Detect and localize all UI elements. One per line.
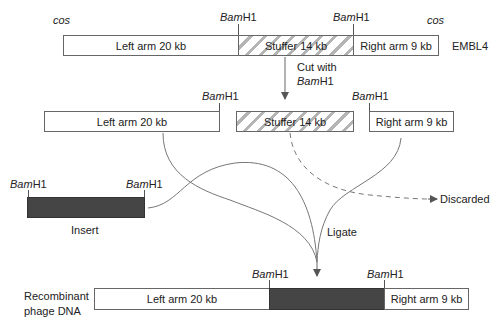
fragment-stuffer: Stuffer 14 kb: [236, 111, 354, 132]
vector-right-arm: Right arm 9 kb: [353, 35, 439, 56]
cos-left-label: cos: [53, 14, 70, 26]
discarded-label: Discarded: [440, 193, 490, 205]
recombinant-label-line1: Recombinant: [24, 290, 89, 302]
fragment-left-arm: Left arm 20 kb: [44, 111, 220, 132]
bamh1-site-label: BamH1: [252, 268, 289, 280]
insert-label: Insert: [71, 224, 99, 236]
cos-right-label: cos: [427, 14, 444, 26]
cloning-diagram: cos cos BamH1 BamH1 Left arm 20 kb Stuff…: [0, 0, 499, 329]
right-arm-curve: [317, 138, 401, 262]
bamh1-site-label: BamH1: [352, 90, 389, 102]
fragment-right-arm: Right arm 9 kb: [369, 111, 454, 132]
discard-curve: [290, 133, 428, 199]
vector-left-arm: Left arm 20 kb: [63, 35, 239, 56]
vector-stuffer: Stuffer 14 kb: [238, 35, 354, 56]
recombinant-insert: [269, 288, 385, 310]
recombinant-left-arm: Left arm 20 kb: [94, 288, 270, 310]
ligate-label: Ligate: [327, 226, 357, 238]
insert-dna: [27, 197, 145, 218]
bamh1-site-label: BamH1: [202, 90, 239, 102]
recombinant-label-line2: phage DNA: [24, 305, 81, 317]
bamh1-site-label: BamH1: [367, 268, 404, 280]
bamh1-site-label: BamH1: [333, 11, 370, 23]
left-arm-curve: [163, 133, 317, 262]
cut-enzyme-label: BamH1: [297, 75, 334, 87]
bamh1-site-label: BamH1: [220, 11, 257, 23]
cut-step-label: Cut with: [297, 61, 337, 73]
vector-name: EMBL4: [452, 40, 488, 52]
insert-curve: [148, 162, 317, 262]
bamh1-site-label: BamH1: [10, 178, 47, 190]
recombinant-right-arm: Right arm 9 kb: [384, 288, 469, 310]
bamh1-site-label: BamH1: [126, 178, 163, 190]
